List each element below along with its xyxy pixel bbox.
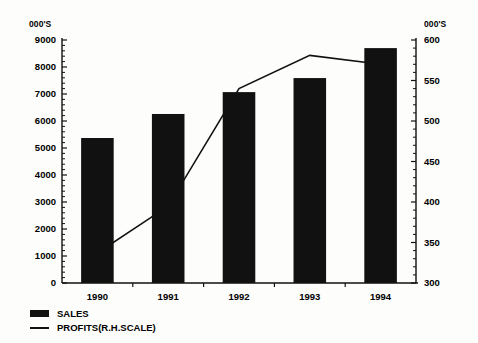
right-tick-550: 550	[424, 76, 456, 86]
left-tick-0: 0	[24, 278, 56, 288]
legend-label-sales: SALES	[57, 308, 89, 319]
right-tick-450: 450	[424, 157, 456, 167]
bar-1992	[223, 92, 256, 283]
left-tick-5000: 5000	[24, 143, 56, 153]
left-tick-6000: 6000	[24, 116, 56, 126]
x-tick-1993: 1993	[280, 291, 340, 302]
x-tick-1990: 1990	[67, 291, 127, 302]
x-tick-1992: 1992	[209, 291, 269, 302]
x-tick-1991: 1991	[138, 291, 198, 302]
bar-1994	[364, 48, 397, 283]
left-tick-9000: 9000	[24, 35, 56, 45]
left-tick-7000: 7000	[24, 89, 56, 99]
right-tick-400: 400	[424, 197, 456, 207]
left-tick-8000: 8000	[24, 62, 56, 72]
right-tick-600: 600	[424, 35, 456, 45]
legend-label-profits: PROFITS(R.H.SCALE)	[57, 322, 156, 333]
left-tick-3000: 3000	[24, 197, 56, 207]
bar-1993	[294, 78, 327, 283]
right-tick-500: 500	[424, 116, 456, 126]
left-tick-2000: 2000	[24, 224, 56, 234]
legend-line-swatch-icon	[30, 327, 49, 329]
left-tick-1000: 1000	[24, 251, 56, 261]
legend-item-profits: PROFITS(R.H.SCALE)	[30, 322, 156, 333]
right-tick-350: 350	[424, 238, 456, 248]
legend-bar-swatch-icon	[30, 310, 49, 317]
bar-1991	[152, 114, 185, 283]
bar-1990	[81, 138, 114, 283]
chart-container: 000'S 000'S 0100020003000400050006000700…	[0, 0, 478, 343]
legend-item-sales: SALES	[30, 308, 89, 319]
right-tick-300: 300	[424, 278, 456, 288]
x-tick-1994: 1994	[351, 291, 411, 302]
left-tick-4000: 4000	[24, 170, 56, 180]
